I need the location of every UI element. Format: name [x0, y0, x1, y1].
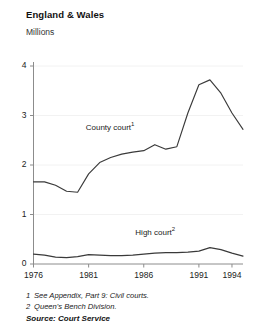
tick-marks	[30, 66, 232, 268]
chart-figure: England & Wales Millions 01234 197619811…	[0, 0, 253, 334]
plot-area: 01234 19761981198619911994 County court1…	[0, 0, 253, 334]
footnote-2-text: Queen's Bench Division.	[34, 302, 117, 311]
series-label-high-court: High court2	[135, 228, 175, 237]
series-label-footnote-marker: 2	[172, 227, 175, 233]
gridlines	[34, 66, 244, 215]
footnote-2: 2Queen's Bench Division.	[26, 301, 246, 312]
y-tick-label-2: 2	[13, 159, 27, 169]
y-tick-label-0: 0	[13, 258, 27, 268]
y-tick-label-1: 1	[13, 209, 27, 219]
y-tick-label-3: 3	[13, 110, 27, 120]
y-tick-label-4: 4	[13, 60, 27, 70]
x-tick-label-1976: 1976	[18, 270, 50, 280]
x-tick-label-1994: 1994	[216, 270, 248, 280]
x-tick-label-1991: 1991	[183, 270, 215, 280]
source-credit: Source: Court Service	[26, 314, 110, 323]
footnotes-block: 1See Appendix, Part 9: Civil courts. 2Qu…	[26, 290, 246, 312]
line-chart-svg	[0, 0, 253, 334]
footnote-1: 1See Appendix, Part 9: Civil courts.	[26, 290, 246, 301]
footnote-1-marker: 1	[26, 290, 34, 301]
series-label-footnote-marker: 1	[131, 121, 134, 127]
footnote-2-marker: 2	[26, 301, 34, 312]
footnote-1-text: See Appendix, Part 9: Civil courts.	[34, 291, 149, 300]
x-tick-label-1986: 1986	[128, 270, 160, 280]
x-tick-label-1981: 1981	[73, 270, 105, 280]
series-label-county-court: County court1	[86, 123, 135, 132]
